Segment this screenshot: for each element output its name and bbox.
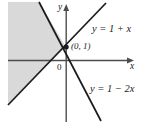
y-axis-label: y xyxy=(58,3,62,13)
y-axis-arrowhead xyxy=(63,4,69,11)
x-axis-label: x xyxy=(130,62,134,72)
line-label-y-equals-1-plus-x: y = 1 + x xyxy=(92,24,131,35)
coordinate-plot xyxy=(0,0,145,124)
point-label-0-1: (0, 1) xyxy=(71,42,91,51)
graph-figure: y = 1 + x y = 1 − 2x (0, 1) y x 0 xyxy=(0,0,145,124)
line-label-y-equals-1-minus-2x: y = 1 − 2x xyxy=(90,84,135,95)
origin-label: 0 xyxy=(57,63,62,72)
intersection-point-marker xyxy=(64,45,69,50)
